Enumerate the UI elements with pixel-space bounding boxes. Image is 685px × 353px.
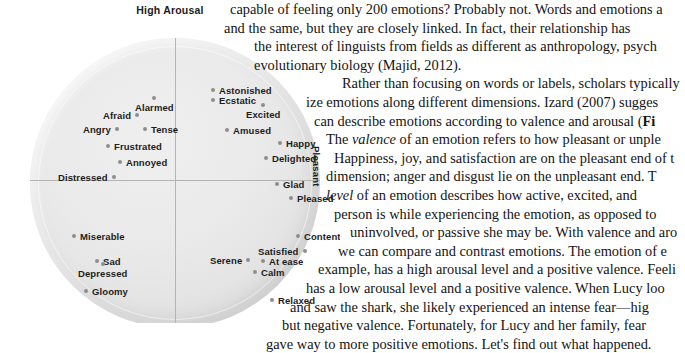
emotion-label-tense: Tense: [143, 124, 178, 135]
emotion-dot-icon: [118, 160, 122, 164]
emotion-dot-icon: [135, 113, 139, 117]
body-text-line: gave way to more positive emotions. Let'…: [222, 335, 685, 353]
emotion-label-distressed: Distressed: [58, 172, 116, 183]
emotion-label-annoyed: Annoyed: [118, 157, 167, 168]
emotion-label-alarmed: Alarmed: [135, 97, 174, 113]
emotion-label-depressed: Depressed: [78, 263, 127, 279]
body-text-line: Happiness, joy, and satisfaction are on …: [222, 149, 685, 168]
body-text-line: ize emotions along different dimensions.…: [222, 93, 685, 112]
body-text-line: person is while experiencing the emotion…: [222, 205, 685, 224]
emotion-label-text: Miserable: [80, 231, 125, 242]
emotion-label-text: Distressed: [58, 172, 108, 183]
emotion-dot-icon: [152, 96, 156, 100]
body-text-line: the interest of linguists from fields as…: [222, 37, 685, 56]
body-text-line: The valence of an emotion refers to how …: [222, 130, 685, 149]
emotion-label-frustrated: Frustrated: [106, 141, 162, 152]
body-text-line: evolutionary biology (Majid, 2012).: [222, 56, 685, 75]
emotion-dot-icon: [101, 262, 105, 266]
emotion-label-text: Alarmed: [135, 102, 174, 113]
emotion-label-text: Afraid: [103, 110, 131, 121]
emotion-dot-icon: [211, 98, 215, 102]
body-text-line: and saw the shark, she likely experience…: [222, 298, 685, 317]
emotion-label-text: Gloomy: [92, 286, 128, 297]
emotion-label-text: Frustrated: [114, 141, 162, 152]
emotion-dot-icon: [115, 127, 119, 131]
emotion-label-gloomy: Gloomy: [84, 286, 128, 297]
emotion-dot-icon: [106, 144, 110, 148]
emotion-label-miserable: Miserable: [72, 231, 125, 242]
emotion-label-text: Depressed: [78, 268, 127, 279]
body-text-line: but negative valence. Fortunately, for L…: [222, 316, 685, 335]
emotion-dot-icon: [211, 88, 215, 92]
emotion-dot-icon: [84, 289, 88, 293]
body-text-line: uninvolved, or passive she may be. With …: [222, 223, 685, 242]
textbook-body-text: capable of feeling only 200 emotions? Pr…: [222, 0, 685, 323]
body-text-line: level of an emotion describes how active…: [222, 186, 685, 205]
body-text-line: example, has a high arousal level and a …: [222, 260, 685, 279]
emotion-dot-icon: [143, 127, 147, 131]
body-text-line: can describe emotions according to valen…: [222, 112, 685, 131]
body-text-line: we can compare and contrast emotions. Th…: [222, 242, 685, 261]
emotion-label-text: Annoyed: [126, 157, 167, 168]
body-paragraph: capable of feeling only 200 emotions? Pr…: [222, 0, 685, 353]
body-text-line: Rather than focusing on words or labels,…: [222, 74, 685, 93]
emotion-label-afraid: Afraid: [103, 110, 139, 121]
emotion-label-angry: Angry: [83, 124, 119, 135]
body-text-line: has a low arousal level and a positive v…: [222, 279, 685, 298]
body-text-line: and the same, but they are closely linke…: [222, 19, 685, 38]
emotion-label-text: Angry: [83, 124, 111, 135]
emotion-dot-icon: [112, 175, 116, 179]
body-text-line: capable of feeling only 200 emotions? Pr…: [222, 0, 685, 19]
emotion-label-text: Tense: [151, 124, 178, 135]
emotion-dot-icon: [72, 234, 76, 238]
body-text-line: dimension; anger and disgust lie on the …: [222, 167, 685, 186]
